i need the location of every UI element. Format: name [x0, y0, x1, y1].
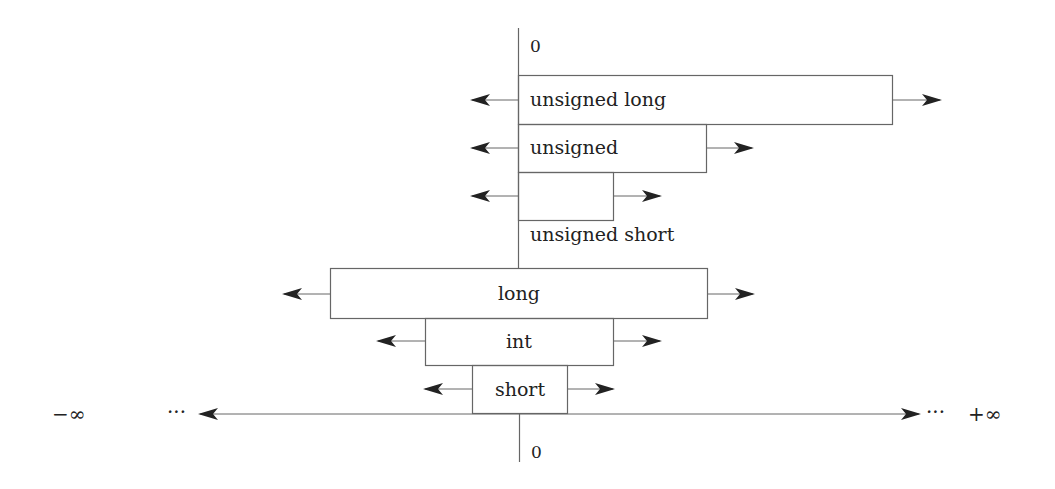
left-ellipsis: ··· — [167, 400, 186, 424]
long-label: long — [498, 282, 540, 304]
top-zero-label: 0 — [530, 36, 541, 56]
positive-infinity-label: +∞ — [968, 402, 1001, 426]
unsigned-label: unsigned — [530, 136, 618, 158]
type-range-diagram: 0 unsigned long unsigned unsigned short … — [0, 0, 1055, 489]
unsigned-short-label: unsigned short — [530, 223, 675, 245]
unsigned-range: unsigned — [472, 125, 752, 173]
unsigned-short-box — [519, 173, 614, 221]
unsigned-long-range: unsigned long — [472, 76, 940, 125]
bottom-zero-label: 0 — [531, 442, 542, 462]
int-label: int — [506, 330, 532, 352]
long-range: long — [284, 269, 753, 319]
unsigned-short-range: unsigned short — [472, 173, 675, 246]
right-ellipsis: ··· — [926, 400, 945, 424]
int-range: int — [378, 319, 660, 366]
short-label: short — [495, 378, 546, 400]
unsigned-long-label: unsigned long — [530, 88, 666, 110]
negative-infinity-label: −∞ — [52, 402, 85, 426]
short-range: short — [425, 366, 613, 414]
